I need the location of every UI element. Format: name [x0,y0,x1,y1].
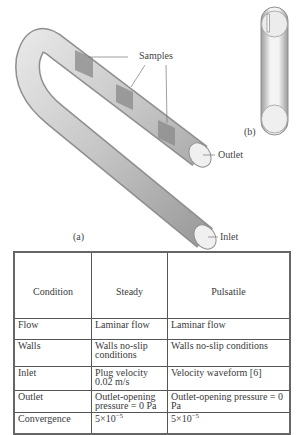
samples-label: Samples [139,50,173,61]
pipe-geometry-figure: Samples Outlet Inlet (a) (b) [0,0,304,250]
table-row: Outlet Outlet-opening pressure = 0 Pa Ou… [14,391,290,413]
header-pulsatile: Pulsatile [168,252,291,319]
cell-pulsatile: 5×10−5 [168,413,291,435]
cell-steady: 5×10−5 [92,413,168,435]
table-row: Convergence 5×10−5 5×10−5 [14,413,290,435]
cell-steady: Outlet-opening pressure = 0 Pa [92,391,168,413]
table-header-row: Condition Steady Pulsatile [14,252,290,319]
panel-b-label: (b) [244,126,256,137]
cell-steady: Laminar flow [92,319,168,340]
outlet-label: Outlet [218,149,243,160]
u-bend-pipe-illustration [0,0,304,250]
cell-pulsatile: Laminar flow [168,319,291,340]
cell-condition: Convergence [14,413,92,435]
cell-condition: Walls [14,340,92,367]
cell-pulsatile: Outlet-opening pressure = 0 Pa [168,391,291,413]
header-condition: Condition [14,252,92,319]
pipe-end-view [261,7,288,135]
cell-condition: Outlet [14,391,92,413]
cell-pulsatile: Velocity waveform [6] [168,367,291,391]
cell-steady: Plug velocity 0.02 m/s [92,367,168,391]
cell-condition: Flow [14,319,92,340]
header-steady: Steady [92,252,168,319]
pulsatile-convergence-exponent: −5 [192,412,199,420]
steady-convergence-exponent: −5 [116,412,123,420]
cell-pulsatile: Walls no-slip conditions [168,340,291,367]
steady-convergence-base: 5×10 [95,413,116,424]
inlet-label: Inlet [220,231,238,242]
table-row: Walls Walls no-slip conditions Walls no-… [14,340,290,367]
table-row: Inlet Plug velocity 0.02 m/s Velocity wa… [14,367,290,391]
panel-a-label: (a) [73,231,84,242]
cell-steady: Walls no-slip conditions [92,340,168,367]
cell-condition: Inlet [14,367,92,391]
table-row: Flow Laminar flow Laminar flow [14,319,290,340]
pulsatile-convergence-base: 5×10 [171,413,192,424]
boundary-conditions-table: Condition Steady Pulsatile Flow Laminar … [13,251,291,435]
